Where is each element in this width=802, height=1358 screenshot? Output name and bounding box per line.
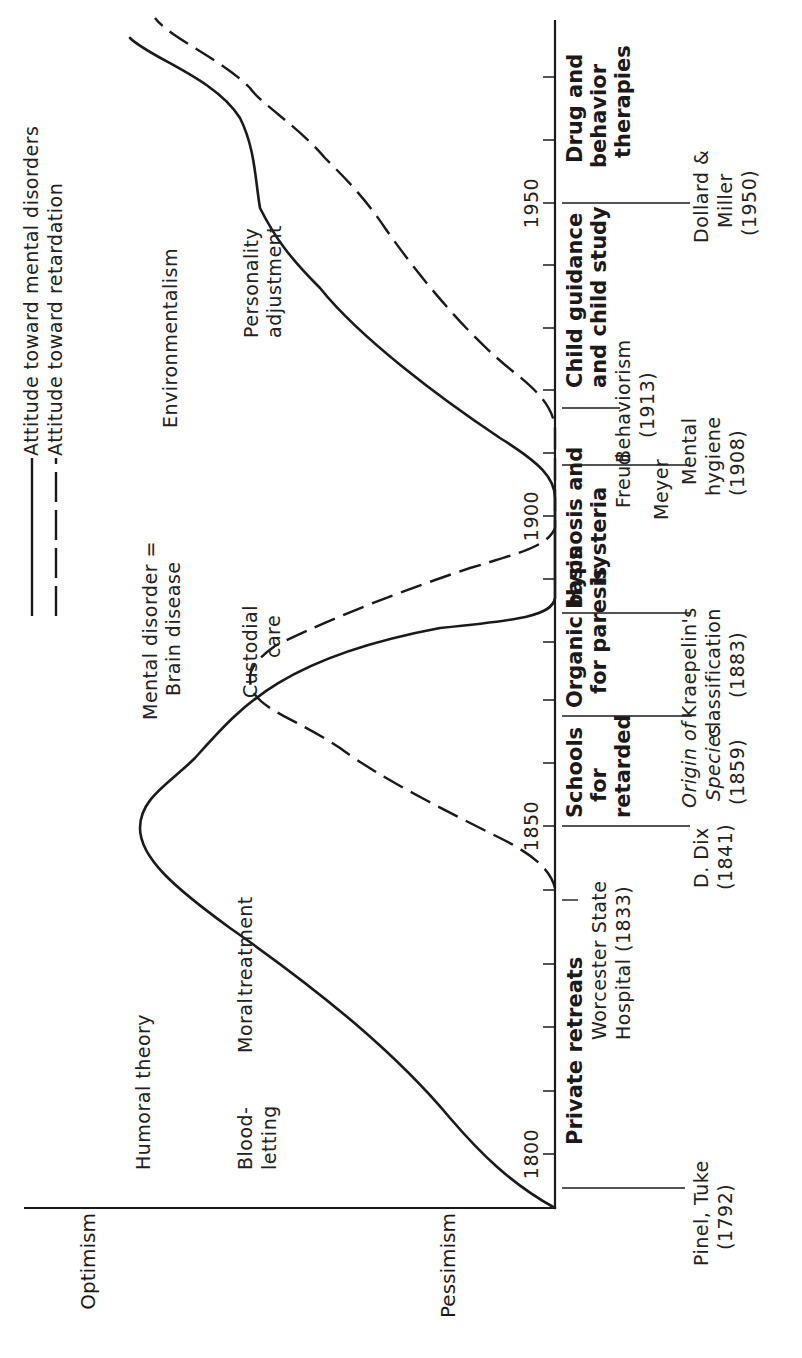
axes xyxy=(24,20,555,1208)
tick-marks xyxy=(543,77,555,1154)
period-drug-3: therapies xyxy=(611,45,635,158)
period-child-1: Child guidance xyxy=(563,213,587,388)
event-worcester-1: Worcester State xyxy=(588,880,610,1040)
label-brain-disease-1: Mental disorder = xyxy=(139,541,161,720)
label-moral: Moral xyxy=(234,998,256,1053)
optimism-label: Optimism xyxy=(76,1213,100,1310)
label-blood-letting-2: letting xyxy=(258,1105,280,1170)
event-origin-1: Origin of xyxy=(678,719,700,808)
label-personality-1: Personality xyxy=(240,228,262,338)
event-dollard-2: Miller xyxy=(714,173,736,228)
event-dollard-1: Dollard & xyxy=(690,150,712,243)
event-meyer: Meyer xyxy=(650,459,672,520)
period-schools-1: Schools xyxy=(563,727,587,818)
tick-label-1950: 1950 xyxy=(520,178,542,228)
label-brain-disease-2: Brain disease xyxy=(162,561,184,696)
period-organic-2: for paresis xyxy=(587,567,611,694)
event-kraepelin-3: (1883) xyxy=(726,632,748,698)
event-behaviorism-1: Behaviorism xyxy=(612,339,634,463)
period-schools-3: retarded xyxy=(611,715,635,818)
series-mental-disorders-line xyxy=(130,38,555,1208)
period-drug-1: Drug and xyxy=(563,54,587,163)
event-hygiene-3: (1908) xyxy=(726,430,748,496)
rotated-chart-stage: 1800 1850 1900 1950 Optimism Pessimism A… xyxy=(0,0,802,1358)
pessimism-label: Pessimism xyxy=(436,1213,460,1318)
period-private-retreats: Private retreats xyxy=(563,957,587,1145)
label-environmentalism: Environmentalism xyxy=(159,248,181,428)
event-kraepelin-1: Kraepelin's xyxy=(678,607,700,718)
period-schools-2: for xyxy=(587,767,611,802)
tick-label-1800: 1800 xyxy=(520,1129,542,1179)
event-kraepelin-2: classification xyxy=(702,608,724,738)
period-hypnosis-1: Hypnosis and xyxy=(563,447,587,606)
legend-dashed-label: Attitude toward retardation xyxy=(44,183,66,456)
event-pinel-1: Pinel, Tuke xyxy=(690,1160,712,1266)
event-labels: Pinel, Tuke (1792) Worcester State Hospi… xyxy=(588,150,760,1266)
label-custodial-1: Custodial xyxy=(239,605,261,698)
legend-solid-label: Attitude toward mental disorders xyxy=(20,126,42,456)
attitude-history-chart: 1800 1850 1900 1950 Optimism Pessimism A… xyxy=(0,0,802,1358)
series-retardation-line xyxy=(155,18,555,888)
event-pinel-2: (1792) xyxy=(714,1184,736,1250)
label-blood-letting-1: Blood- xyxy=(234,1107,256,1170)
event-dix-2: (1841) xyxy=(714,824,736,890)
label-personality-2: adjustment xyxy=(263,225,285,338)
tick-labels: 1800 1850 1900 1950 xyxy=(520,178,542,1179)
tick-label-1900: 1900 xyxy=(520,491,542,541)
event-origin-3: (1859) xyxy=(726,739,748,805)
period-drug-2: behavior xyxy=(587,63,611,168)
event-worcester-2: Hospital (1833) xyxy=(612,886,634,1040)
period-child-2: and child study xyxy=(587,206,611,388)
label-treatment: treatment xyxy=(234,896,256,996)
event-hygiene-2: hygiene xyxy=(702,416,724,496)
curve-annotations: Humoral theory Blood- letting Moral trea… xyxy=(132,225,285,1170)
event-hygiene-1: Mental xyxy=(678,418,700,486)
label-humoral-theory: Humoral theory xyxy=(132,1014,154,1170)
event-behaviorism-2: (1913) xyxy=(636,372,658,438)
legend: Attitude toward mental disorders Attitud… xyxy=(20,126,66,616)
label-custodial-2: care xyxy=(262,615,284,658)
event-dix-1: D. Dix xyxy=(690,827,712,888)
period-hypnosis-2: hysteria xyxy=(587,487,611,584)
event-dollard-3: (1950) xyxy=(738,170,760,236)
tick-label-1850: 1850 xyxy=(520,801,542,851)
